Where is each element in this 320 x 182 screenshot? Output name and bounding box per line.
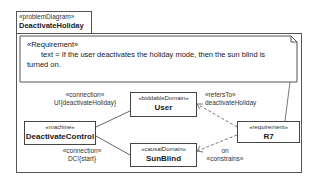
edge-refers-to-stereotype: «refersTo» bbox=[205, 91, 275, 99]
note-text-line2: turned on. bbox=[27, 60, 295, 70]
edge-connection-user-label: «connection» U!{deactivateHoliday} bbox=[40, 91, 130, 107]
node-requirement[interactable]: «requirement» R7 bbox=[237, 121, 300, 143]
edge-connection-user-phenomena: U!{deactivateHoliday} bbox=[40, 99, 130, 107]
node-user[interactable]: «biddableDomain» User bbox=[130, 92, 197, 117]
node-sunblind[interactable]: «causalDomain» SunBlind bbox=[130, 143, 197, 167]
note-stereotype: «Requirement» bbox=[27, 40, 295, 50]
node-machine-stereotype: «machine» bbox=[25, 123, 95, 131]
edge-refers-to-label: «refersTo» deactivateHoliday bbox=[205, 91, 275, 107]
edge-refers-to-phenomena: deactivateHoliday bbox=[205, 99, 275, 107]
node-requirement-name: R7 bbox=[238, 131, 299, 142]
edge-connection-sunblind-label: «connection» DC!{start} bbox=[52, 147, 112, 163]
node-machine[interactable]: «machine» DeactivateControl bbox=[24, 121, 96, 145]
note-text-line1: text = If the user deactivates the holid… bbox=[27, 50, 295, 60]
node-sunblind-stereotype: «causalDomain» bbox=[131, 145, 196, 153]
edge-connection-sunblind-stereotype: «connection» bbox=[52, 147, 112, 155]
edge-constrains-phenomena: on bbox=[200, 147, 250, 155]
node-user-name: User bbox=[131, 102, 196, 113]
node-requirement-stereotype: «requirement» bbox=[238, 123, 299, 131]
edge-connection-user-stereotype: «connection» bbox=[40, 91, 130, 99]
edge-constrains-label: on «constrains» bbox=[200, 147, 250, 163]
node-sunblind-name: SunBlind bbox=[131, 153, 196, 164]
node-machine-name: DeactivateControl bbox=[25, 131, 95, 142]
edge-connection-sunblind-phenomena: DC!{start} bbox=[52, 155, 112, 163]
edge-constrains-stereotype: «constrains» bbox=[200, 155, 250, 163]
node-user-stereotype: «biddableDomain» bbox=[131, 94, 196, 102]
requirement-note: «Requirement» text = If the user deactiv… bbox=[20, 36, 297, 82]
